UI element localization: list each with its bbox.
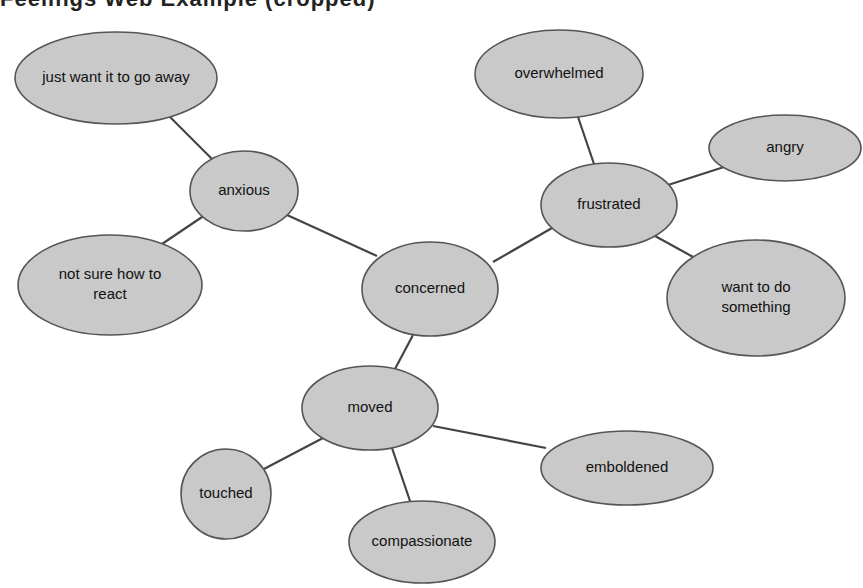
node-just-want-it-to-go-away: just want it to go away	[15, 32, 217, 124]
node-label: frustrated	[577, 195, 640, 212]
edge-frustrated-to-angry	[668, 167, 724, 185]
edge-anxious-to-not-sure-how-to-react	[162, 215, 205, 244]
node-overwhelmed: overwhelmed	[475, 30, 643, 118]
node-label: want to do	[720, 278, 790, 295]
node-touched: touched	[181, 449, 271, 539]
node-label: moved	[347, 398, 392, 415]
node-label: something	[721, 298, 790, 315]
node-label: emboldened	[586, 458, 669, 475]
node-label: not sure how to	[59, 265, 162, 282]
node-compassionate: compassionate	[349, 501, 495, 583]
edge-anxious-to-just-want-it-to-go-away	[170, 117, 212, 159]
node-emboldened: emboldened	[541, 431, 713, 505]
node-label: compassionate	[372, 532, 473, 549]
edge-moved-to-compassionate	[392, 448, 410, 501]
edge-moved-to-touched	[262, 438, 323, 470]
node-label: anxious	[218, 181, 270, 198]
edge-moved-to-emboldened	[433, 426, 546, 448]
node-not-sure-how-to-react: not sure how toreact	[18, 235, 202, 335]
node-anxious: anxious	[190, 151, 298, 231]
edge-frustrated-to-overwhelmed	[578, 117, 594, 164]
edge-concerned-to-moved	[395, 335, 413, 369]
node-label: overwhelmed	[514, 64, 603, 81]
mind-map-diagram: concernedanxiousjust want it to go awayn…	[0, 0, 863, 588]
node-want-to-do-something: want to dosomething	[667, 240, 845, 356]
node-concerned: concerned	[362, 242, 498, 336]
node-label: touched	[199, 484, 252, 501]
edge-concerned-to-frustrated	[493, 228, 552, 262]
nodes-layer: concernedanxiousjust want it to go awayn…	[15, 30, 861, 583]
node-label: just want it to go away	[41, 68, 190, 85]
edge-frustrated-to-want-to-do-something	[655, 236, 695, 258]
node-frustrated: frustrated	[541, 163, 677, 247]
node-label: react	[93, 285, 127, 302]
node-label: concerned	[395, 279, 465, 296]
edge-concerned-to-anxious	[287, 215, 377, 256]
node-angry: angry	[709, 115, 861, 181]
node-moved: moved	[302, 366, 438, 450]
node-label: angry	[766, 138, 804, 155]
